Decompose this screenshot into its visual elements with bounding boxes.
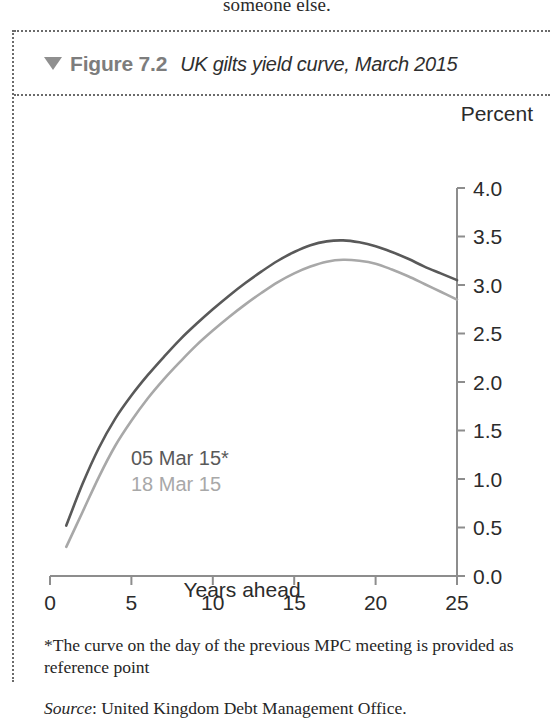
y-tick-label: 1.0 <box>473 468 502 491</box>
figure-container: Figure 7.2 UK gilts yield curve, March 2… <box>12 30 548 682</box>
figure-source: Source: United Kingdom Debt Management O… <box>44 698 514 719</box>
legend-item-0: 05 Mar 15* <box>131 445 229 471</box>
y-tick-label: 4.0 <box>473 177 502 200</box>
chart: Percent 0.00.51.01.52.02.53.03.54.005101… <box>14 100 550 610</box>
yield-curve-plot: 0.00.51.01.52.02.53.03.54.00510152025 <box>14 100 550 610</box>
figure-number: Figure 7.2 <box>70 52 167 76</box>
y-tick-label: 3.0 <box>473 274 502 297</box>
y-tick-label: 3.5 <box>473 225 502 248</box>
y-tick-label: 0.5 <box>473 516 502 539</box>
figure-top-rule <box>14 30 550 32</box>
figure-notes: *The curve on the day of the previous MP… <box>44 634 514 719</box>
series-line-0 <box>66 240 457 525</box>
y-tick-label: 2.5 <box>473 322 502 345</box>
chart-legend: 05 Mar 15* 18 Mar 15 <box>131 445 229 497</box>
triangle-down-icon <box>44 57 62 70</box>
figure-footnote: *The curve on the day of the previous MP… <box>44 634 514 678</box>
x-axis-title: Years ahead <box>14 578 470 602</box>
y-tick-label: 1.5 <box>473 419 502 442</box>
page-running-text: someone else. <box>0 0 554 16</box>
figure-caption-rule <box>14 94 550 96</box>
source-text: : United Kingdom Debt Management Office. <box>92 698 407 718</box>
y-tick-label: 0.0 <box>473 565 502 588</box>
source-label: Source <box>44 698 92 718</box>
legend-item-1: 18 Mar 15 <box>131 471 229 497</box>
figure-title: UK gilts yield curve, March 2015 <box>180 53 457 76</box>
y-tick-label: 2.0 <box>473 371 502 394</box>
figure-caption: Figure 7.2 UK gilts yield curve, March 2… <box>44 52 457 76</box>
